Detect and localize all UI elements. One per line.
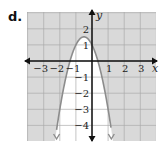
y-tick-label: 2 [83,24,89,35]
y-tick-label: 1 [83,40,89,51]
x-tick-label: 2 [122,63,128,74]
y-tick-label: −3 [74,104,89,115]
x-axis-label: x [152,62,159,75]
y-axis-label: y [95,9,103,22]
x-tick-label: −3 [33,63,48,74]
y-tick-label: −4 [74,120,89,131]
x-tick-label: −2 [49,63,64,74]
y-tick-label: −2 [74,88,89,99]
y-tick-label: −1 [74,72,89,83]
x-tick-label: 1 [106,63,112,74]
parabola-graph: −3−2−112321−1−2−3−4xy [0,0,162,148]
x-tick-label: 3 [138,63,144,74]
